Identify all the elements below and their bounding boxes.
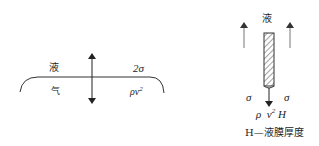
left-sigma-label: σ: [246, 91, 251, 103]
film-phase-label: 液: [262, 13, 272, 25]
lower-force-label: ρv2: [130, 86, 143, 98]
liquid-film: [264, 33, 274, 86]
upper-phase-label: 液: [49, 62, 59, 74]
force-h: H: [278, 108, 286, 120]
right-sigma-label: σ: [284, 91, 289, 103]
upper-force-label: 2σ: [133, 62, 144, 74]
film-caption: H—液膜厚度: [245, 127, 304, 139]
lower-phase-label: 气: [51, 85, 60, 97]
force-exp: 2: [272, 107, 276, 115]
lower-force-base: ρv: [130, 86, 139, 97]
force-rho: ρ: [256, 108, 261, 120]
film-force-label: ρ v2 H: [256, 108, 286, 120]
lower-force-exp: 2: [139, 85, 143, 93]
